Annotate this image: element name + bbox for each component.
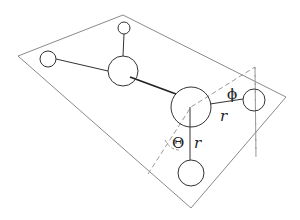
atom-upper-center xyxy=(108,56,138,86)
phi-label: ϕ xyxy=(227,85,237,103)
atom-right xyxy=(243,89,265,111)
plane xyxy=(18,15,286,208)
atom-center xyxy=(171,87,211,127)
atom-bottom xyxy=(178,160,204,186)
r-lower-label: r xyxy=(194,134,202,152)
bond-left xyxy=(56,59,108,71)
molecule-diagram: ϕ r Θ r xyxy=(0,0,300,220)
dashed-plane xyxy=(148,67,256,174)
bond-center xyxy=(130,77,176,94)
theta-label: Θ xyxy=(172,134,184,152)
atom-left xyxy=(40,51,56,67)
atom-top xyxy=(118,22,130,34)
bond-top xyxy=(123,34,124,56)
r-upper-label: r xyxy=(220,107,228,125)
